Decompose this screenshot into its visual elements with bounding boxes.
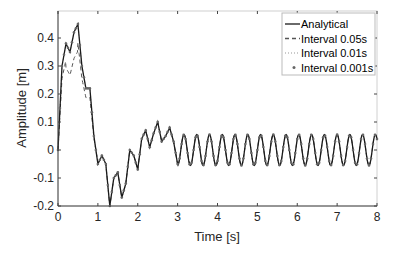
x-tick-label: 7 bbox=[334, 210, 341, 224]
chart: 012345678-0.2-0.100.10.20.30.4 Time [s] … bbox=[0, 0, 398, 256]
legend-entry: Interval 0.001s bbox=[301, 62, 374, 74]
x-tick-label: 8 bbox=[374, 210, 381, 224]
x-axis-label: Time [s] bbox=[194, 229, 240, 244]
y-axis-label: Amplitude [m] bbox=[14, 68, 29, 147]
legend-entry: Analytical bbox=[301, 18, 348, 30]
y-tick-label: 0 bbox=[47, 143, 54, 157]
x-tick-label: 0 bbox=[55, 210, 62, 224]
x-tick-label: 2 bbox=[134, 210, 141, 224]
legend-entry: Interval 0.01s bbox=[301, 47, 368, 59]
x-tick-label: 6 bbox=[294, 210, 301, 224]
y-tick-label: -0.1 bbox=[33, 171, 54, 185]
x-tick-label: 1 bbox=[95, 210, 102, 224]
y-tick-label: 0.1 bbox=[37, 115, 54, 129]
y-tick-label: 0.2 bbox=[37, 87, 54, 101]
y-tick-label: -0.2 bbox=[33, 199, 54, 213]
x-tick-label: 4 bbox=[214, 210, 221, 224]
y-tick-label: 0.4 bbox=[37, 31, 54, 45]
legend-entry: Interval 0.05s bbox=[301, 33, 368, 45]
y-tick-label: 0.3 bbox=[37, 59, 54, 73]
x-tick-label: 5 bbox=[254, 210, 261, 224]
x-tick-label: 3 bbox=[174, 210, 181, 224]
legend: AnalyticalInterval 0.05sInterval 0.01sIn… bbox=[282, 13, 375, 75]
